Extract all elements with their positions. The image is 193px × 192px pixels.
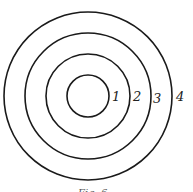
ring-label-4: 4 [175, 89, 184, 104]
ring-4 [4, 12, 172, 180]
concentric-circles-diagram: 1 2 3 4 Fig. 6 [0, 0, 193, 192]
ring-1 [67, 75, 109, 117]
ring-label-3: 3 [153, 91, 161, 106]
ring-label-1: 1 [112, 89, 120, 104]
ring-label-2: 2 [132, 89, 141, 104]
figure-caption: Fig. 6 [77, 187, 108, 192]
